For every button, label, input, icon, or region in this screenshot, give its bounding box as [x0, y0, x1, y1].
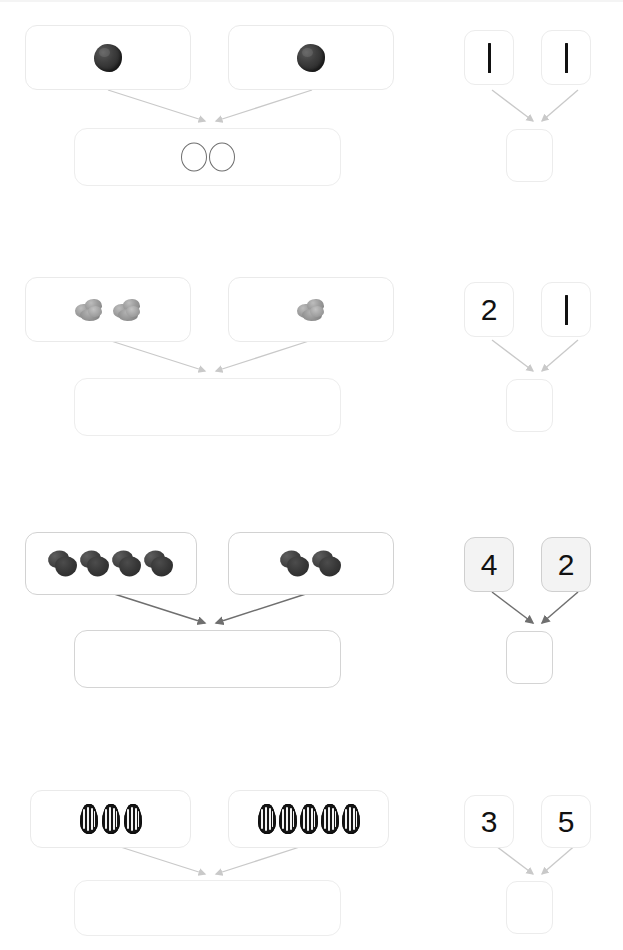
- dark-seed-icon: [94, 44, 122, 72]
- sum-answer-box[interactable]: [74, 630, 341, 688]
- digit-value: 2: [481, 295, 498, 325]
- number-box-sum[interactable]: [506, 881, 553, 934]
- number-box-right-addend[interactable]: [541, 282, 591, 337]
- arrows-problem-3: [108, 592, 578, 623]
- picture-group-right[interactable]: [228, 532, 394, 595]
- number-box-left-addend[interactable]: 2: [464, 282, 514, 337]
- number-box-left-addend[interactable]: 3: [464, 795, 514, 848]
- digit-one-stroke: [488, 43, 491, 73]
- digit-one-stroke: [565, 43, 568, 73]
- picture-items: [26, 44, 190, 72]
- arrows-problem-2: [108, 340, 578, 371]
- worksheet-page: 2 4 2: [0, 0, 623, 950]
- picture-group-right[interactable]: [228, 277, 394, 342]
- dark-acorn-icon: [80, 550, 110, 577]
- sum-answer-box[interactable]: [74, 128, 341, 186]
- dark-acorn-icon: [144, 550, 174, 577]
- digit-value: 5: [558, 807, 575, 837]
- sunflower-seed-icon: [124, 804, 142, 834]
- picture-group-left[interactable]: [25, 532, 197, 595]
- gray-walnut-cluster-icon: [112, 297, 142, 323]
- picture-items: [229, 44, 393, 72]
- number-box-left-addend[interactable]: [464, 30, 514, 85]
- sunflower-seed-icon: [342, 804, 360, 834]
- picture-group-left[interactable]: [25, 25, 191, 90]
- sunflower-seed-icon: [279, 804, 297, 834]
- digit-value: 3: [481, 807, 498, 837]
- picture-items: [31, 804, 190, 834]
- picture-items: [26, 550, 196, 577]
- number-box-right-addend[interactable]: 2: [541, 537, 591, 592]
- number-box-sum[interactable]: [506, 379, 553, 432]
- number-box-sum[interactable]: [506, 129, 553, 182]
- sunflower-seed-icon: [321, 804, 339, 834]
- digit-value: 4: [481, 550, 498, 580]
- dark-seed-icon: [297, 44, 325, 72]
- sum-answer-box[interactable]: [74, 880, 341, 936]
- gray-walnut-cluster-icon: [296, 297, 326, 323]
- picture-items: [229, 804, 388, 834]
- page-top-rule: [0, 0, 623, 2]
- sum-answer-box[interactable]: [74, 378, 341, 436]
- drawn-answer-marks: [75, 143, 340, 172]
- digit-one-stroke: [565, 295, 568, 325]
- sunflower-seed-icon: [102, 804, 120, 834]
- dark-acorn-icon: [280, 550, 310, 577]
- sunflower-seed-icon: [300, 804, 318, 834]
- number-box-right-addend[interactable]: [541, 30, 591, 85]
- number-box-sum[interactable]: [506, 631, 553, 684]
- dark-acorn-icon: [312, 550, 342, 577]
- picture-group-left[interactable]: [30, 790, 191, 848]
- arrows-problem-1: [108, 90, 578, 121]
- picture-group-right[interactable]: [228, 25, 394, 90]
- picture-items: [229, 550, 393, 577]
- dark-acorn-icon: [48, 550, 78, 577]
- circle-outline-icon: [181, 143, 207, 172]
- gray-walnut-cluster-icon: [74, 297, 104, 323]
- dark-acorn-icon: [112, 550, 142, 577]
- picture-group-right[interactable]: [228, 790, 389, 848]
- sunflower-seed-icon: [80, 804, 98, 834]
- sunflower-seed-icon: [258, 804, 276, 834]
- digit-value: 2: [558, 550, 575, 580]
- number-box-left-addend[interactable]: 4: [464, 537, 514, 592]
- circle-outline-icon: [209, 143, 235, 172]
- picture-items: [26, 297, 190, 323]
- number-box-right-addend[interactable]: 5: [541, 795, 591, 848]
- picture-group-left[interactable]: [25, 277, 191, 342]
- picture-items: [229, 297, 393, 323]
